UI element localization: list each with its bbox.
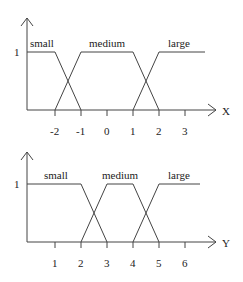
- label-small: small: [44, 169, 68, 181]
- x-tick-label: 3: [182, 125, 188, 137]
- x-tick-label: -2: [50, 125, 59, 137]
- x-tick-label: 2: [78, 257, 84, 269]
- mf-large: [133, 52, 205, 110]
- x-tick-label: 1: [130, 125, 136, 137]
- label-medium: medium: [89, 37, 125, 49]
- chart-y: Y 1 1 2 3 4 5 6 small medium large: [14, 152, 230, 269]
- label-small: small: [30, 37, 54, 49]
- x-tick-label: 1: [52, 257, 58, 269]
- mf-small: [27, 184, 107, 242]
- x-tick-label: -1: [76, 125, 85, 137]
- label-large: large: [168, 169, 190, 181]
- x-tick-label: 0: [104, 125, 110, 137]
- x-tick-label: 4: [130, 257, 136, 269]
- x-tick-label: 5: [156, 257, 162, 269]
- mf-small: [27, 52, 81, 110]
- x-tick-label: 6: [182, 257, 188, 269]
- fuzzy-membership-figure: X 1 -2 -1 0 1 2 3 small medium large Y 1: [0, 0, 243, 282]
- chart-x: X 1 -2 -1 0 1 2 3 small medium large: [14, 18, 230, 137]
- x-tick-label: 2: [156, 125, 162, 137]
- x-axis-label: X: [222, 105, 230, 117]
- y-tick-1: 1: [14, 178, 20, 190]
- label-medium: medium: [102, 169, 138, 181]
- mf-large: [133, 184, 200, 242]
- label-large: large: [168, 37, 190, 49]
- mf-medium: [55, 52, 159, 110]
- x-tick-label: 3: [104, 257, 110, 269]
- mf-medium: [81, 184, 159, 242]
- x-axis-label: Y: [222, 237, 230, 249]
- y-tick-1: 1: [14, 46, 20, 58]
